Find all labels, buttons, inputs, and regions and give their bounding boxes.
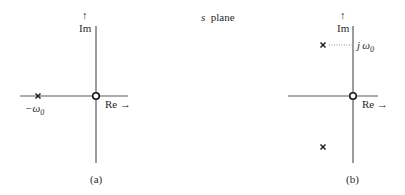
panel-a-caption: (a) xyxy=(90,173,102,185)
diagram-title: s plane xyxy=(201,11,235,23)
title-word: plane xyxy=(211,11,235,23)
title-variable: s xyxy=(201,11,205,23)
panel-b-zero-marker xyxy=(350,93,357,100)
panel-b-re-label: Re → xyxy=(362,98,388,110)
tick-symbol: ω xyxy=(362,39,370,51)
panel-a-im-arrow: ↑ xyxy=(82,9,88,21)
tick-prefix: j xyxy=(357,39,360,51)
panel-b-im-arrow: ↑ xyxy=(340,9,346,21)
panel-a-zero-marker xyxy=(93,93,100,100)
tick-sub: 0 xyxy=(370,45,374,54)
panel-b-im-tick-label: j ω0 xyxy=(357,39,374,56)
panel-b-im-label: Im xyxy=(337,22,349,34)
panel-b-pole-lower xyxy=(321,145,326,150)
pole-label-text: −ω xyxy=(25,102,40,114)
panel-a-pole-label: −ω0 xyxy=(25,102,44,119)
panel-b-caption: (b) xyxy=(346,173,359,185)
panel-b-pole-upper xyxy=(321,43,326,48)
panel-a-im-label: Im xyxy=(79,22,91,34)
pole-label-sub: 0 xyxy=(40,108,44,117)
panel-a-re-label: Re → xyxy=(105,98,131,110)
